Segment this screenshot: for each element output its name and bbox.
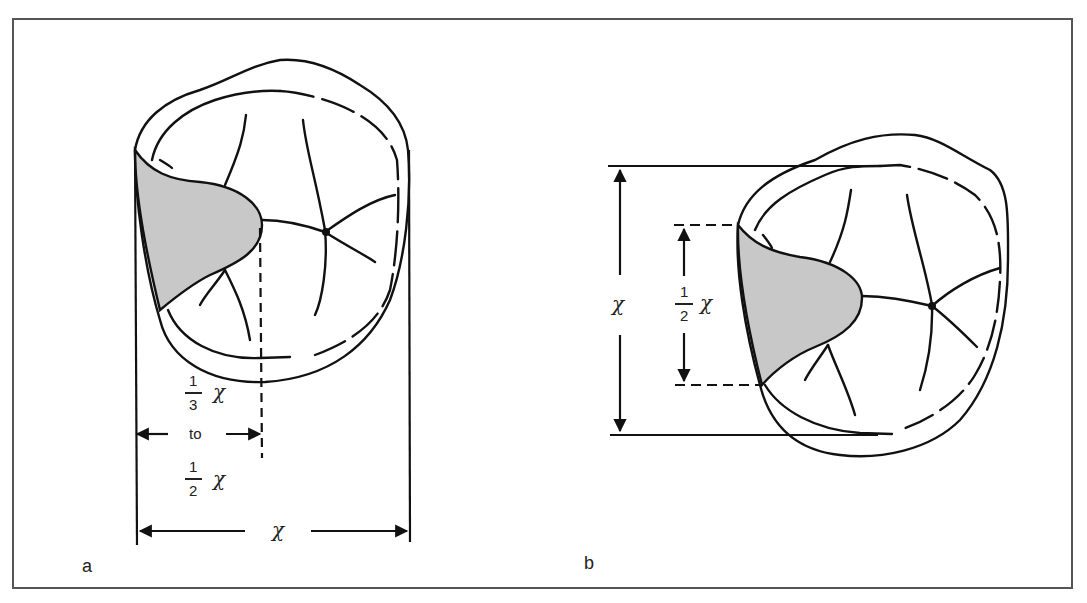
panel-b-half-fraction-numerator: 1 [680,283,688,300]
panel-a-lower-fraction-variable: χ [213,380,225,404]
panel-a-upper-fraction-variable: χ [213,467,225,491]
panel-b-shaded-region [738,225,862,385]
panel-b-half-fraction-variable: χ [700,291,712,315]
panel-a-lower-fraction-numerator: 1 [189,372,197,389]
panel-b-half-fraction-bar [675,303,693,305]
panel-a-upper-fraction-numerator: 1 [189,458,197,475]
panel-b-label: b [584,553,594,574]
panel-a-lower-fraction-bar [185,392,202,394]
panel-a-upper-fraction-denominator: 2 [189,482,197,499]
panel-a-full-width-label: χ [272,518,284,542]
panel-a-label: a [82,556,92,577]
panel-a-lower-fraction-denominator: 3 [189,396,197,413]
panel-b-full-height-label: χ [612,292,624,316]
panel-b-half-fraction-denominator: 2 [680,307,688,324]
panel-a-shaded-region [135,150,262,310]
panel-a-upper-fraction-bar [185,478,202,480]
panel-a-connector-to: to [189,425,202,442]
tooth-diagram-illustration [0,0,1087,603]
